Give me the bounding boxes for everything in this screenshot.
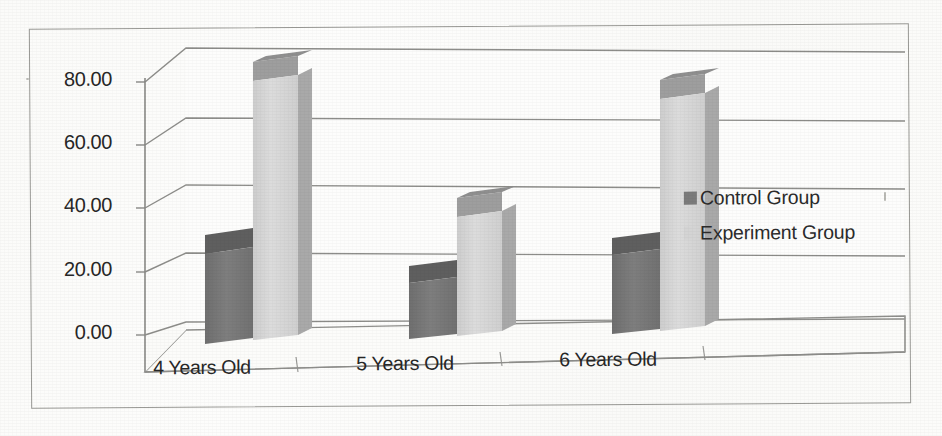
bar-control-5-years-old: [409, 260, 457, 339]
chart-legend: Control Group Experiment Group: [684, 185, 924, 256]
legend-item-control-group[interactable]: Control Group: [684, 185, 924, 209]
bar-control-4-years-old: [205, 228, 253, 344]
bar-experiment-5-years-old: [457, 186, 516, 336]
y-tick-label-80: 80.00: [0, 68, 112, 92]
legend-swatch-control-icon: [684, 192, 697, 205]
legend-label-experiment-group: Experiment Group: [700, 221, 855, 245]
legend-item-experiment-group[interactable]: Experiment Group: [684, 220, 924, 244]
scan-speck: [26, 78, 29, 80]
bar-control-6-years-old: [612, 232, 660, 334]
bar-experiment-4-years-old: [253, 50, 312, 340]
y-tick-label-60: 60.00: [0, 131, 112, 155]
y-axis-ticks: [136, 82, 145, 335]
y-tick-label-0: 0.00: [0, 321, 112, 345]
y-tick-label-40: 40.00: [0, 194, 112, 218]
x-category-label-6-years-old: 6 Years Old: [528, 347, 688, 371]
chart-screenshot: 80.00 60.00 40.00 20.00 0.00 4 Years Old…: [0, 0, 942, 436]
x-category-label-5-years-old: 5 Years Old: [325, 351, 485, 375]
x-category-label-4-years-old: 4 Years Old: [122, 355, 282, 379]
legend-swatch-experiment-icon: [684, 227, 697, 240]
scan-speck: [884, 192, 886, 201]
legend-label-control-group: Control Group: [700, 186, 820, 210]
y-tick-label-20: 20.00: [0, 258, 112, 282]
